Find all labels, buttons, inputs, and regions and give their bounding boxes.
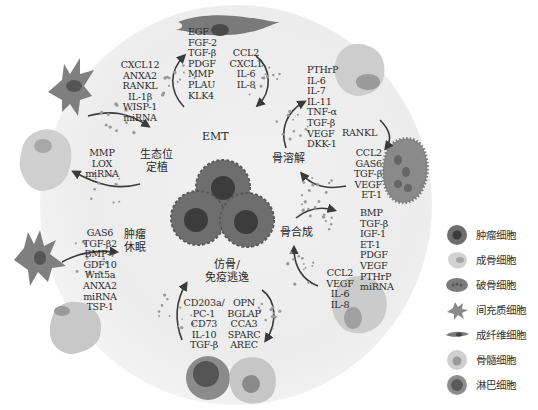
secretion-dot: [93, 188, 96, 191]
secretion-dot: [293, 283, 296, 286]
secretion-dot: [290, 252, 292, 254]
secretion-dot: [325, 191, 328, 194]
secretion-dot: [311, 177, 313, 179]
secretion-dot: [97, 181, 100, 184]
factor-label: TSP-1: [80, 302, 120, 313]
legend-label: 成骨细胞: [476, 252, 516, 267]
secretion-dot: [307, 281, 310, 284]
process-mimicry-line2: 免疫逃逸: [205, 271, 249, 284]
secretion-dot: [166, 298, 168, 300]
factor-label: EGF: [188, 27, 217, 38]
secretion-dot: [182, 64, 185, 67]
arrow-rankl: [380, 120, 389, 148]
secretion-dot: [183, 71, 185, 73]
secretion-dot: [299, 134, 302, 137]
legend-item-lymphocyte: 淋巴细胞: [445, 373, 538, 399]
mesenchymal-cell-lower-left: [14, 230, 66, 286]
secretion-dot: [330, 217, 332, 219]
legend-label: 肿瘤细胞: [476, 227, 516, 242]
secretion-dot: [314, 206, 317, 209]
factor-label: CCL2: [226, 48, 266, 59]
osteoblast-cell-left: [20, 129, 72, 191]
legend-label: 成纤维细胞: [476, 327, 526, 342]
secretion-dot: [100, 112, 103, 115]
factor-list-osteogenesis: BMPTGF-βIGF-1ET-1PDGFVEGFPTHrPmiRNA: [360, 208, 394, 293]
secretion-dot: [301, 257, 304, 260]
secretion-dot: [266, 75, 269, 78]
factor-label: miRNA: [82, 169, 122, 180]
bone-marrow-cell-bottom: [230, 357, 276, 403]
secretion-dot: [304, 267, 306, 269]
factor-list-immune: CD203a/PC-1CD73IL-10TGF-β: [182, 298, 226, 351]
secretion-dot: [304, 200, 307, 203]
factor-label: CCL2: [336, 148, 382, 159]
secretion-dot: [118, 201, 120, 203]
secretion-dot: [76, 270, 79, 273]
mesenchymal-cell-top-left: [48, 58, 94, 116]
secretion-dot: [112, 201, 114, 203]
osteoclast-cell-right: [383, 138, 427, 202]
secretion-dot: [307, 208, 309, 210]
factor-label: PTHrP: [307, 65, 338, 76]
process-mimicry-line1: 仿骨/: [205, 258, 249, 271]
factor-label: PLAU: [188, 80, 217, 91]
factor-label: KLK4: [188, 91, 217, 102]
secretion-dot: [330, 223, 333, 226]
factor-label: TGF-β: [182, 340, 226, 351]
legend-item-mesenchymal: 间充质细胞: [445, 298, 538, 324]
factor-label: CD203a/: [182, 298, 226, 309]
secretion-dot: [278, 73, 281, 76]
secretion-dot: [273, 312, 275, 314]
secretion-dot: [288, 110, 292, 114]
secretion-dot: [286, 262, 289, 265]
secretion-dot: [272, 327, 274, 329]
secretion-dot: [316, 183, 319, 186]
secretion-dot: [289, 137, 292, 140]
secretion-dot: [293, 130, 296, 133]
factor-list-bone-marrow: OPNBGLAPCCA3SPARCAREC: [226, 298, 262, 351]
secretion-dot: [271, 315, 274, 318]
osteoblast-cell-top-right: [335, 44, 385, 96]
secretion-dot: [272, 74, 274, 76]
factor-label: AREC: [226, 340, 262, 351]
process-niche-line1: 生态位: [140, 148, 173, 161]
process-niche-line2: 定植: [140, 161, 173, 174]
factor-label: GAS6: [80, 228, 120, 239]
factor-label: miRNA: [110, 113, 170, 124]
secretion-dot: [301, 203, 303, 205]
secretion-dot: [328, 182, 330, 184]
legend-item-osteoblast: 成骨细胞: [445, 248, 538, 274]
factor-label: BMP: [360, 208, 394, 219]
secretion-dot: [282, 133, 284, 135]
secretion-dot: [158, 310, 161, 313]
secretion-dot: [303, 181, 306, 184]
secretion-dot: [75, 242, 77, 244]
factor-list-emt-outgoing: EGFFGF-2TGF-βPDGFMMPPLAUKLK4: [188, 27, 217, 101]
process-dormancy-line1: 肿瘤: [124, 228, 146, 241]
secretion-dot: [90, 197, 93, 200]
factor-label: OPN: [226, 298, 262, 309]
secretion-dot: [292, 119, 294, 121]
osteoblast-icon: [445, 248, 471, 274]
secretion-dot: [308, 189, 310, 191]
tumor-cell-icon: [445, 223, 471, 249]
secretion-dot: [302, 209, 305, 212]
secretion-dot: [328, 228, 330, 230]
process-emt: EMT: [202, 130, 229, 143]
legend-item-osteoclast: 破骨细胞: [445, 273, 538, 299]
secretion-dot: [311, 183, 314, 186]
secretion-dot: [105, 124, 108, 127]
secretion-dot: [173, 71, 176, 74]
factor-label: VEGF: [360, 261, 394, 272]
arrow-osteogenesis-out: [296, 208, 334, 218]
legend-label: 淋巴细胞: [476, 377, 516, 392]
secretion-dot: [309, 215, 312, 218]
legend-item-bone-marrow: 骨髓细胞: [445, 348, 538, 374]
secretion-dot: [278, 310, 281, 313]
factor-label: miRNA: [360, 282, 394, 293]
secretion-dot: [303, 263, 305, 265]
secretion-dot: [163, 293, 166, 296]
legend-item-fibroblast: 成纤维细胞: [445, 323, 538, 349]
factor-list-osteoblast: PTHrPIL-6IL-7IL-11TNF-αTGF-βVEGFDKK-1: [307, 65, 338, 150]
secretion-dot: [330, 179, 333, 182]
